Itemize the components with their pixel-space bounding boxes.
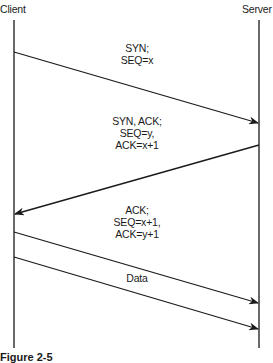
- message-label-syn-ack: SYN, ACK; SEQ=y, ACK=x+1: [112, 115, 162, 151]
- message-label-syn: SYN; SEQ=x: [121, 42, 154, 66]
- message-label-data: Data: [126, 272, 147, 284]
- figure-caption: Figure 2-5: [0, 351, 53, 363]
- message-label-ack: ACK; SEQ=x+1, ACK=y+1: [114, 204, 161, 240]
